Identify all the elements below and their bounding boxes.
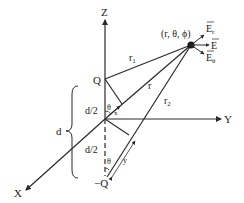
r-label: r (148, 80, 152, 91)
theta-lower-label: θ (107, 157, 111, 166)
etheta-label: Eθ (206, 51, 216, 65)
upper-half-d-label: d/2 (85, 105, 98, 116)
perpendicular-origin-to-r2 (105, 119, 129, 135)
svg-text:E: E (211, 40, 217, 51)
r1-line (105, 45, 191, 79)
negative-charge-label: −Q (94, 177, 108, 189)
x-offset-label: x (114, 109, 118, 117)
perpendicular-q-to-r (105, 79, 122, 104)
lower-half-d-label: d/2 (85, 144, 98, 155)
er-label: Er (206, 22, 215, 36)
etheta-vector (191, 45, 204, 54)
separation-brace (66, 86, 78, 178)
r2-label: r2 (164, 95, 171, 108)
svg-text:Eθ: Eθ (206, 52, 216, 65)
positive-charge-label: Q (93, 74, 101, 86)
dipole-diagram: Z Y X Q −Q (r, θ, ϕ) r1 r r2 d d/2 d/2 θ… (0, 0, 244, 203)
e-label: E (211, 39, 219, 51)
y-axis-label: Y (224, 113, 232, 125)
theta-upper-label: θ (107, 103, 111, 112)
x-axis-label: X (14, 187, 22, 199)
y-offset-label: y (123, 156, 127, 165)
d-label: d (56, 125, 62, 137)
point-coordinates-label: (r, θ, ϕ) (161, 28, 191, 40)
diagram-canvas: Z Y X Q −Q (r, θ, ϕ) r1 r r2 d d/2 d/2 θ… (0, 0, 244, 203)
r2-line (107, 45, 191, 177)
er-vector (191, 35, 204, 45)
r1-label: r1 (129, 52, 136, 65)
z-axis-label: Z (101, 6, 108, 18)
svg-text:Er: Er (206, 23, 215, 36)
